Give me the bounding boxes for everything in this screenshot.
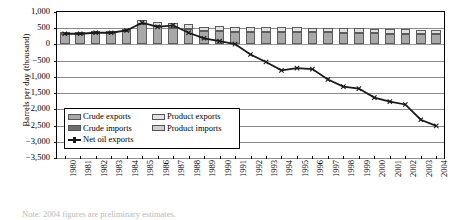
x-tick-label: 1998 bbox=[346, 160, 356, 177]
y-tick-label: −2,000 bbox=[6, 104, 50, 112]
x-tick-label: 1981 bbox=[83, 160, 93, 177]
x-tick-label: 1994 bbox=[284, 160, 294, 177]
x-tick-label: 1990 bbox=[223, 160, 233, 177]
chart-figure: Barrels per day (thousand) 1,0005000−500… bbox=[0, 0, 453, 220]
x-tick-label: 1991 bbox=[238, 160, 248, 177]
legend-item-product-imports: Product imports bbox=[152, 124, 236, 133]
x-tick-mark bbox=[421, 156, 422, 159]
x-tick-mark bbox=[235, 156, 236, 159]
product-exports-swatch-icon bbox=[152, 114, 165, 120]
y-tick-label: −2,500 bbox=[6, 121, 50, 129]
x-tick-label: 1986 bbox=[161, 160, 171, 177]
x-tick-mark bbox=[127, 156, 128, 159]
x-tick-mark bbox=[142, 156, 143, 159]
y-tick-label: −3,500 bbox=[6, 153, 50, 161]
legend-item-net-oil-exports: Net oil exports bbox=[68, 135, 154, 144]
legend-label: Product imports bbox=[167, 124, 222, 133]
x-tick-mark bbox=[359, 156, 360, 159]
x-tick-mark bbox=[251, 156, 252, 159]
legend-item-crude-imports: Crude imports bbox=[68, 124, 152, 133]
legend-label: Crude imports bbox=[83, 124, 132, 133]
x-axis-tick-labels: 1980198119821983198419851986198719881989… bbox=[56, 160, 445, 200]
y-tick-label: −1,000 bbox=[6, 72, 50, 80]
x-tick-mark bbox=[266, 156, 267, 159]
x-tick-mark bbox=[281, 156, 282, 159]
x-tick-label: 2004 bbox=[439, 160, 449, 177]
x-tick-mark bbox=[96, 156, 97, 159]
x-tick-label: 1995 bbox=[300, 160, 310, 177]
x-tick-mark bbox=[436, 156, 437, 159]
legend-row: Crude exports Product exports bbox=[68, 111, 236, 123]
legend-label: Net oil exports bbox=[83, 135, 134, 144]
x-tick-label: 2000 bbox=[377, 160, 387, 177]
x-tick-mark bbox=[65, 156, 66, 159]
x-tick-label: 1997 bbox=[331, 160, 341, 177]
legend-row: Net oil exports bbox=[68, 134, 236, 146]
x-tick-mark bbox=[220, 156, 221, 159]
x-tick-label: 1982 bbox=[99, 160, 109, 177]
x-tick-mark bbox=[158, 156, 159, 159]
x-tick-mark bbox=[111, 156, 112, 159]
x-tick-label: 2002 bbox=[408, 160, 418, 177]
x-tick-label: 1996 bbox=[315, 160, 325, 177]
x-tick-mark bbox=[297, 156, 298, 159]
x-tick-mark bbox=[374, 156, 375, 159]
x-tick-mark bbox=[80, 156, 81, 159]
x-tick-mark bbox=[189, 156, 190, 159]
legend-item-crude-exports: Crude exports bbox=[68, 112, 152, 121]
legend-label: Crude exports bbox=[83, 112, 131, 121]
y-tick-mark bbox=[54, 158, 57, 159]
product-imports-swatch-icon bbox=[152, 125, 165, 131]
x-tick-mark bbox=[204, 156, 205, 159]
y-tick-label: 500 bbox=[6, 23, 50, 31]
legend-item-product-exports: Product exports bbox=[152, 112, 236, 121]
x-tick-label: 1999 bbox=[362, 160, 372, 177]
x-tick-mark bbox=[173, 156, 174, 159]
x-tick-label: 1980 bbox=[68, 160, 78, 177]
crude-imports-swatch-icon bbox=[68, 125, 81, 131]
y-tick-label: 1,000 bbox=[6, 7, 50, 15]
crude-exports-swatch-icon bbox=[68, 114, 81, 120]
y-tick-label: −1,500 bbox=[6, 88, 50, 96]
x-tick-label: 1987 bbox=[176, 160, 186, 177]
x-tick-label: 1989 bbox=[207, 160, 217, 177]
x-tick-label: 1988 bbox=[192, 160, 202, 177]
y-tick-label: 0 bbox=[6, 39, 50, 47]
legend-label: Product exports bbox=[167, 112, 221, 121]
x-tick-mark bbox=[390, 156, 391, 159]
y-tick-label: −3,000 bbox=[6, 137, 50, 145]
legend-row: Crude imports Product imports bbox=[68, 123, 236, 135]
x-tick-label: 1993 bbox=[269, 160, 279, 177]
x-tick-mark bbox=[312, 156, 313, 159]
x-tick-mark bbox=[328, 156, 329, 159]
x-tick-label: 1983 bbox=[114, 160, 124, 177]
x-tick-label: 2001 bbox=[393, 160, 403, 177]
y-tick-label: −500 bbox=[6, 56, 50, 64]
x-tick-label: 1985 bbox=[145, 160, 155, 177]
x-tick-label: 1992 bbox=[254, 160, 264, 177]
x-tick-label: 2003 bbox=[424, 160, 434, 177]
x-tick-mark bbox=[405, 156, 406, 159]
figure-note: Note: 2004 figures are preliminary estim… bbox=[22, 209, 442, 220]
chart-legend: Crude exports Product exports Crude impo… bbox=[64, 108, 240, 149]
x-tick-label: 1984 bbox=[130, 160, 140, 177]
net-oil-exports-swatch-icon bbox=[68, 137, 81, 143]
x-tick-mark bbox=[343, 156, 344, 159]
